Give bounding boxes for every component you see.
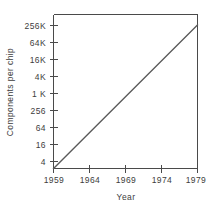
y-tick-label: 16K — [30, 55, 46, 65]
y-tick-label: 256K — [25, 21, 46, 31]
x-tick-label: 1969 — [116, 175, 137, 185]
x-tick-label: 1974 — [152, 175, 173, 185]
moores-law-chart: 256K 64K 16K 4K 1 K 256 64 16 4 1959 196… — [0, 0, 222, 206]
y-tick-label: 64K — [30, 38, 46, 48]
data-series-components-per-chip — [54, 25, 198, 169]
y-tick-label: 4 — [41, 157, 46, 167]
y-axis-title: Components per chip — [5, 48, 15, 136]
data-line-path — [54, 25, 198, 169]
chart-page: 256K 64K 16K 4K 1 K 256 64 16 4 1959 196… — [0, 0, 222, 206]
y-tick-label: 256 — [31, 106, 46, 116]
x-tick-label: 1959 — [44, 175, 65, 185]
y-tick-label: 16 — [36, 140, 46, 150]
y-tick-label: 4K — [35, 72, 46, 82]
x-tick-label: 1964 — [80, 175, 101, 185]
x-axis-title: Year — [117, 192, 136, 202]
x-tick-label: 1979 — [186, 175, 207, 185]
x-tick-labels: 1959 1964 1969 1974 1979 — [44, 175, 207, 185]
y-tick-label: 64 — [36, 123, 46, 133]
y-tick-label: 1 K — [32, 89, 46, 99]
plot-frame — [54, 15, 198, 169]
y-tick-labels: 256K 64K 16K 4K 1 K 256 64 16 4 — [25, 21, 46, 167]
